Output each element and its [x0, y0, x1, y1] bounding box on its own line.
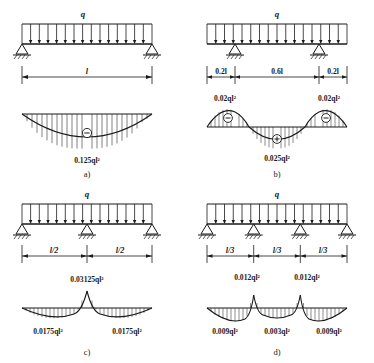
span-label-d-2: l/3 [273, 246, 282, 255]
moment-value-d-5: 0.009ql² [316, 327, 342, 336]
panel-c: q [0, 181, 187, 362]
dimension-spans-c [22, 245, 152, 263]
moment-diagram-d [207, 295, 347, 321]
span-label-c-2: l/2 [116, 246, 125, 255]
moment-value-b-2: 0.02ql² [318, 94, 341, 103]
support-roller-mid-c [78, 224, 96, 239]
support-pin-left-c [13, 224, 31, 239]
span-label-b-2: 0.6l [271, 67, 283, 76]
span-label-d-1: l/3 [226, 246, 235, 255]
sign-positive-b [273, 135, 282, 144]
load-arrows-c [22, 204, 152, 224]
span-label-b-1: 0.2l [215, 67, 227, 76]
load-label-d: q [275, 189, 280, 199]
moment-value-d-3: 0.009ql² [212, 327, 238, 336]
span-label-d-3: l/3 [319, 246, 328, 255]
span-label-c-1: l/2 [50, 246, 59, 255]
support-pin-left-b [226, 44, 244, 59]
sign-negative-b-right [322, 114, 331, 123]
support-pin-left-d [198, 224, 216, 239]
load-label-a: q [81, 9, 86, 19]
panel-a: q [0, 0, 187, 181]
moment-value-b-3: 0.025ql² [264, 154, 290, 163]
span-label-b-3: 0.2l [327, 67, 339, 76]
sign-negative-a [82, 128, 91, 137]
panel-d: q [187, 181, 374, 362]
moment-value-b-1: 0.02ql² [214, 94, 237, 103]
support-roller-right-a [143, 44, 161, 59]
panel-caption-a: a) [84, 169, 91, 179]
sign-negative-b-left [224, 114, 233, 123]
moment-value-d-2: 0.012ql² [294, 273, 320, 282]
support-roller-right-d [338, 224, 356, 239]
moment-value-d-1: 0.012ql² [234, 273, 260, 282]
span-label-a-1: l [86, 67, 89, 76]
moment-value-a-1: 0.125ql² [74, 156, 100, 165]
moment-value-c-2: 0.0175ql² [33, 327, 63, 336]
load-label-b: q [275, 9, 280, 19]
moment-value-c-1: 0.03125ql² [70, 275, 104, 284]
moment-value-d-4: 0.003ql² [264, 327, 290, 336]
support-roller-3-d [291, 224, 309, 239]
support-pin-left-a [13, 44, 31, 59]
panel-caption-b: b) [273, 169, 280, 179]
support-roller-2-d [245, 224, 263, 239]
panel-b: q [187, 0, 374, 181]
support-roller-right-b [310, 44, 328, 59]
load-label-c: q [85, 189, 90, 199]
panel-caption-d: d) [273, 347, 280, 357]
load-arrows-a [22, 24, 152, 44]
moment-diagram-c [22, 291, 152, 318]
support-roller-right-c [143, 224, 161, 239]
panel-caption-c: c) [84, 347, 91, 357]
moment-value-c-3: 0.0175ql² [112, 327, 142, 336]
